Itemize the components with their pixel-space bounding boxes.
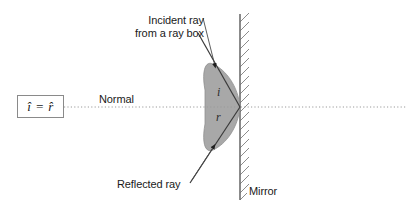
reflected-ray-label: Reflected ray xyxy=(117,178,181,191)
formula-box: î = r̂ xyxy=(17,95,64,118)
angle-of-reflection-label: r xyxy=(216,110,221,125)
reflection-diagram: î = r̂ Normal Incident ray from a ray bo… xyxy=(0,0,406,213)
incident-ray-label-line1: Incident ray xyxy=(118,14,204,27)
mirror-label: Mirror xyxy=(249,185,277,198)
incident-ray-label-line2: from a ray box xyxy=(118,27,204,40)
formula-text: î = r̂ xyxy=(18,96,63,117)
incident-ray-label: Incident ray from a ray box xyxy=(118,14,204,40)
incident-label-leader xyxy=(203,18,215,66)
normal-label: Normal xyxy=(99,93,134,106)
angle-of-incidence-label: i xyxy=(217,85,220,100)
reflected-label-leader xyxy=(192,146,214,180)
